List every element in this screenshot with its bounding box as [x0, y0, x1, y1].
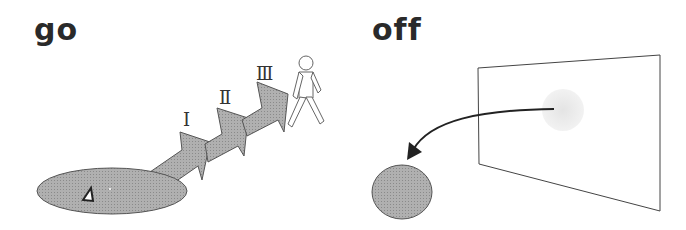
screen-panel — [478, 55, 660, 211]
target-ellipse — [372, 165, 432, 219]
arrow-stage-2 — [205, 108, 248, 162]
stage-label-1: Ⅰ — [183, 109, 190, 130]
walking-person-icon — [288, 56, 324, 127]
arrow-stage-3 — [242, 82, 288, 136]
stage-label-3: Ⅲ — [256, 63, 273, 84]
off-diagram — [372, 55, 660, 219]
go-diagram: Ⅰ Ⅱ Ⅲ — [37, 56, 324, 214]
diagram-canvas: Ⅰ Ⅱ Ⅲ — [0, 0, 686, 230]
origin-ellipse — [37, 168, 187, 214]
stage-label-2: Ⅱ — [219, 87, 231, 108]
arrowhead-icon — [407, 142, 422, 160]
